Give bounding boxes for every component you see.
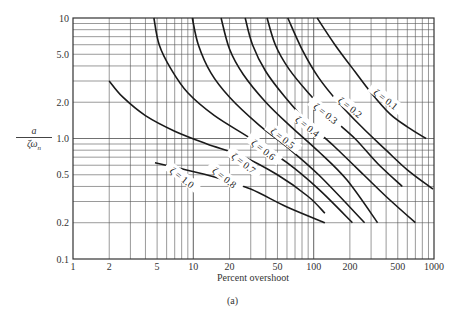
y-denominator-subscript: n	[38, 144, 42, 152]
figure-caption: (a)	[0, 295, 465, 306]
y-axis-numerator: a	[16, 125, 52, 138]
x-tick-label: 1000	[424, 261, 444, 272]
y-axis-denominator: ζωn	[16, 138, 52, 154]
x-tick-label: 10	[188, 261, 198, 272]
x-tick-label: 500	[390, 261, 405, 272]
curve-label: ζ = 0.4	[293, 114, 322, 140]
x-tick-label: 1	[71, 261, 76, 272]
y-tick-label: 0.1	[57, 254, 70, 265]
y-denominator-text: ζω	[27, 138, 38, 149]
x-tick-label: 100	[306, 261, 321, 272]
damping-curves	[109, 18, 433, 223]
curve-label: ζ = 0.8	[210, 165, 239, 191]
curve-label: ζ = 0.3	[311, 101, 340, 127]
curve-label: ζ = 0.7	[229, 150, 258, 176]
y-tick-label: 5.0	[57, 49, 70, 60]
x-axis-title: Percent overshoot	[217, 272, 289, 283]
y-tick-label: 1.0	[57, 133, 70, 144]
x-tick-label: 50	[272, 261, 282, 272]
x-axis-ticks: 1251020501002005001000	[71, 261, 445, 272]
x-tick-label: 2	[107, 261, 112, 272]
y-tick-label: 2.0	[57, 97, 70, 108]
x-tick-label: 20	[225, 261, 235, 272]
curve-labels: ζ = 0.1ζ = 0.2ζ = 0.3ζ = 0.4ζ = 0.5ζ = 0…	[163, 82, 405, 194]
x-tick-label: 5	[155, 261, 160, 272]
y-tick-label: 10	[59, 13, 69, 24]
y-axis-title: a ζωn	[16, 125, 52, 154]
x-tick-label: 200	[342, 261, 357, 272]
y-tick-label: 0.5	[57, 169, 70, 180]
y-axis-ticks: 0.10.20.51.02.05.010	[57, 13, 70, 265]
y-tick-label: 0.2	[57, 217, 70, 228]
log-log-chart: 1251020501002005001000 0.10.20.51.02.05.…	[0, 0, 465, 320]
